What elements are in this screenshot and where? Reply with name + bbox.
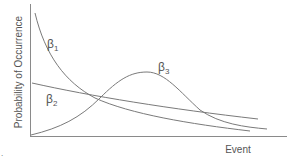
label-beta2: β2 <box>46 92 58 108</box>
label-beta1: β1 <box>47 37 59 53</box>
label-beta3: β3 <box>158 60 170 76</box>
probability-chart: β1 β2 β3 Event Probability of Occurrence… <box>0 0 294 158</box>
x-axis-label: Event <box>225 144 251 155</box>
corner-mark: . <box>1 149 3 158</box>
curve-beta3 <box>31 72 267 135</box>
y-axis-label: Probability of Occurrence <box>13 15 24 128</box>
